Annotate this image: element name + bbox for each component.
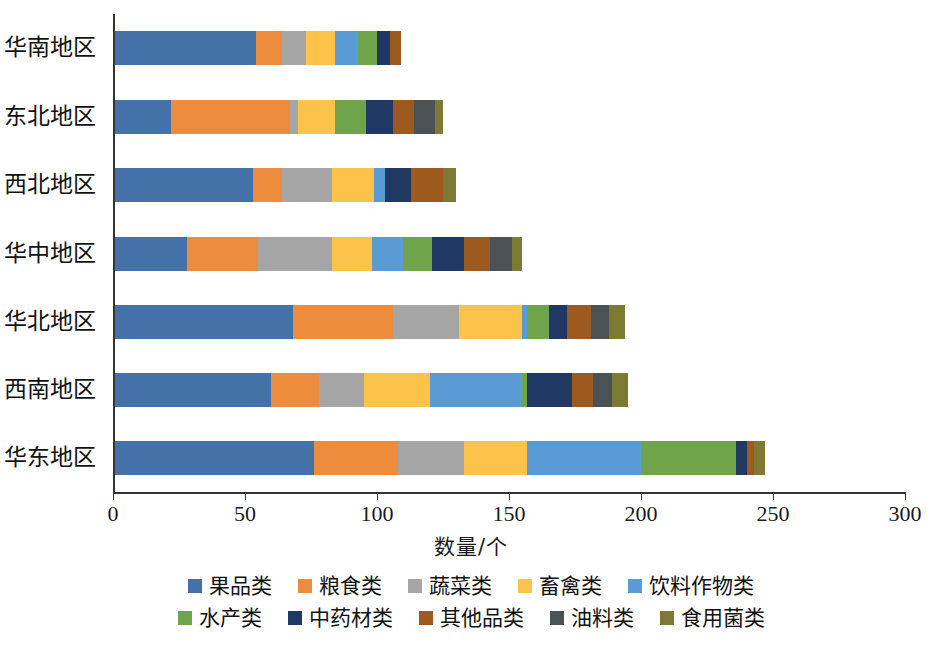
bar-segment[interactable]: [393, 305, 459, 339]
legend-swatch-icon: [550, 611, 564, 625]
bar-segment[interactable]: [256, 31, 282, 65]
bar-segment[interactable]: [113, 31, 256, 65]
bar-segment[interactable]: [113, 100, 171, 134]
bar-segment[interactable]: [364, 373, 430, 407]
bar-segment[interactable]: [641, 441, 736, 475]
bar-row[interactable]: [113, 305, 625, 339]
legend-row-2: 水产类中药材类其他品类油料类食用菌类: [0, 602, 942, 634]
bar-segment[interactable]: [306, 31, 335, 65]
legend-item[interactable]: 果品类: [188, 573, 272, 599]
legend-item[interactable]: 食用菌类: [660, 605, 765, 631]
bar-segment[interactable]: [171, 100, 290, 134]
legend-label: 果品类: [209, 573, 272, 599]
bar-segment[interactable]: [432, 237, 464, 271]
bar-segment[interactable]: [113, 373, 271, 407]
bar-segment[interactable]: [258, 237, 332, 271]
y-axis-line: [113, 14, 115, 492]
bar-segment[interactable]: [319, 373, 364, 407]
bar-segment[interactable]: [113, 441, 314, 475]
x-tick-label-0: 0: [78, 500, 148, 528]
x-tick-250: [773, 492, 774, 500]
x-tick-100: [377, 492, 378, 500]
legend-label: 畜禽类: [539, 573, 602, 599]
bar-segment[interactable]: [435, 100, 443, 134]
bar-segment[interactable]: [282, 31, 306, 65]
y-axis-label-1: 华南地区: [4, 32, 108, 62]
bar-segment[interactable]: [335, 100, 367, 134]
bar-segment[interactable]: [414, 100, 435, 134]
legend-item[interactable]: 蔬菜类: [408, 573, 492, 599]
bar-segment[interactable]: [372, 237, 404, 271]
legend-label: 水产类: [199, 605, 262, 631]
bar-segment[interactable]: [253, 168, 282, 202]
bar-segment[interactable]: [459, 305, 522, 339]
bar-segment[interactable]: [443, 168, 456, 202]
bar-row[interactable]: [113, 168, 456, 202]
bar-row[interactable]: [113, 373, 628, 407]
bar-segment[interactable]: [393, 100, 414, 134]
legend-item[interactable]: 中药材类: [288, 605, 393, 631]
legend-swatch-icon: [408, 579, 422, 593]
y-axis-label-7: 华东地区: [4, 442, 108, 472]
bar-segment[interactable]: [332, 237, 372, 271]
bar-segment[interactable]: [527, 305, 548, 339]
bar-segment[interactable]: [609, 305, 625, 339]
bar-segment[interactable]: [464, 441, 527, 475]
bar-segment[interactable]: [332, 168, 374, 202]
chart-legend: 果品类粮食类蔬菜类畜禽类饮料作物类水产类中药材类其他品类油料类食用菌类: [0, 570, 942, 634]
legend-swatch-icon: [419, 611, 433, 625]
bar-segment[interactable]: [293, 305, 393, 339]
bar-segment[interactable]: [512, 237, 523, 271]
bar-segment[interactable]: [113, 168, 253, 202]
bar-segment[interactable]: [593, 373, 611, 407]
legend-item[interactable]: 畜禽类: [518, 573, 602, 599]
bar-segment[interactable]: [567, 305, 591, 339]
bar-row[interactable]: [113, 100, 443, 134]
bar-segment[interactable]: [113, 237, 187, 271]
bar-segment[interactable]: [358, 31, 376, 65]
bar-segment[interactable]: [464, 237, 490, 271]
legend-swatch-icon: [188, 579, 202, 593]
bar-segment[interactable]: [385, 168, 411, 202]
bar-segment[interactable]: [591, 305, 609, 339]
bar-segment[interactable]: [411, 168, 443, 202]
y-axis-label-4: 华中地区: [4, 238, 108, 268]
bar-segment[interactable]: [403, 237, 432, 271]
bar-segment[interactable]: [549, 305, 567, 339]
bar-segment[interactable]: [430, 373, 522, 407]
bar-row[interactable]: [113, 441, 765, 475]
bar-segment[interactable]: [612, 373, 628, 407]
bar-segment[interactable]: [282, 168, 332, 202]
legend-swatch-icon: [628, 579, 642, 593]
bar-segment[interactable]: [290, 100, 298, 134]
bar-row[interactable]: [113, 237, 522, 271]
legend-item[interactable]: 粮食类: [298, 573, 382, 599]
bar-segment[interactable]: [736, 441, 747, 475]
bar-segment[interactable]: [113, 305, 293, 339]
bar-segment[interactable]: [398, 441, 464, 475]
legend-swatch-icon: [518, 579, 532, 593]
bar-segment[interactable]: [527, 373, 572, 407]
bar-segment[interactable]: [187, 237, 258, 271]
legend-item[interactable]: 其他品类: [419, 605, 524, 631]
bar-segment[interactable]: [572, 373, 593, 407]
bar-segment[interactable]: [366, 100, 392, 134]
bar-segment[interactable]: [298, 100, 335, 134]
bar-segment[interactable]: [377, 31, 390, 65]
bar-segment[interactable]: [374, 168, 385, 202]
legend-swatch-icon: [298, 579, 312, 593]
bar-segment[interactable]: [490, 237, 511, 271]
bar-segment[interactable]: [314, 441, 398, 475]
bar-segment[interactable]: [527, 441, 641, 475]
bar-segment[interactable]: [335, 31, 359, 65]
bar-segment[interactable]: [390, 31, 401, 65]
bar-segment[interactable]: [271, 373, 319, 407]
bar-segment[interactable]: [747, 441, 755, 475]
x-tick-label-50: 50: [210, 500, 280, 528]
bar-segment[interactable]: [754, 441, 765, 475]
legend-label: 食用菌类: [681, 605, 765, 631]
legend-item[interactable]: 油料类: [550, 605, 634, 631]
legend-item[interactable]: 饮料作物类: [628, 573, 754, 599]
legend-item[interactable]: 水产类: [178, 605, 262, 631]
bar-row[interactable]: [113, 31, 401, 65]
